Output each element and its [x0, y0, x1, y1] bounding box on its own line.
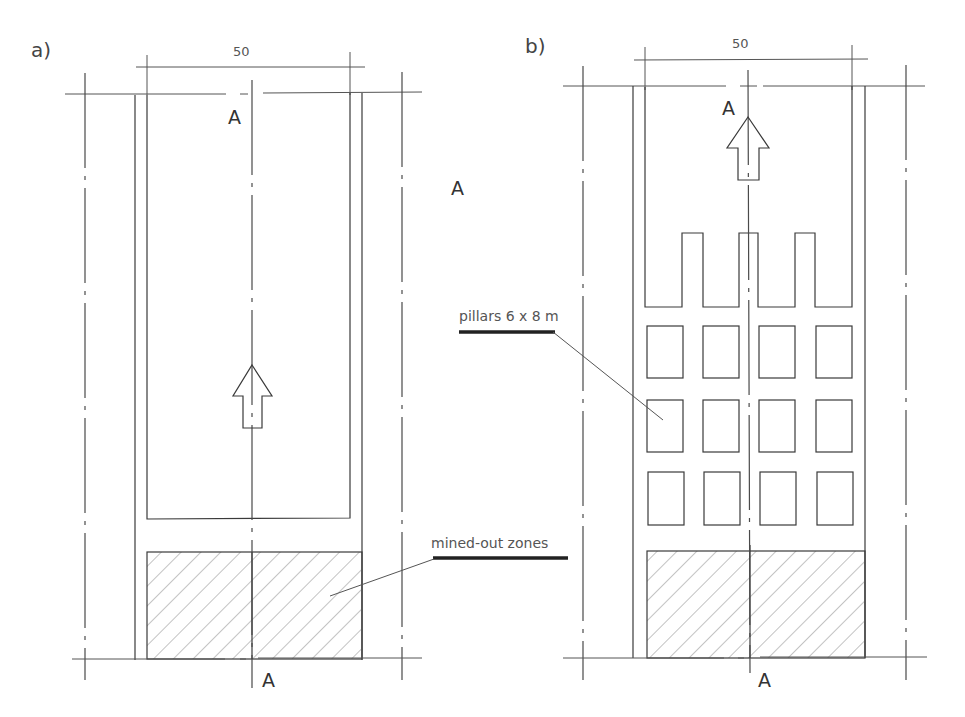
pillar [703, 400, 739, 452]
dimension-line-b [634, 59, 868, 60]
pillar [816, 400, 852, 452]
pillar [817, 472, 853, 525]
panel-b [563, 45, 927, 680]
section-label-top-b: A [722, 97, 735, 119]
pillar [760, 472, 796, 525]
pillar [703, 326, 739, 378]
mining-layout-diagram [0, 0, 965, 717]
section-label-bottom-a: A [262, 669, 275, 691]
panel-label-a: a) [31, 38, 51, 62]
pillar [759, 326, 795, 378]
mined-out-zone-a [147, 552, 362, 659]
callout-label-mined-out: mined-out zones [431, 535, 548, 551]
callout-label-pillars: pillars 6 x 8 m [459, 308, 559, 324]
pillar [816, 326, 852, 378]
dimension-label-a: 50 [233, 44, 250, 59]
pillar [648, 472, 684, 525]
pillar [647, 326, 683, 378]
dimension-label-b: 50 [732, 36, 749, 51]
panel-a [65, 52, 422, 688]
pillar [647, 400, 683, 452]
stope-outline-a [147, 93, 350, 519]
section-label-floating: A [451, 177, 464, 199]
callout-mined-out [330, 558, 568, 596]
section-label-bottom-b: A [758, 669, 771, 691]
section-label-top-a: A [228, 106, 241, 128]
panel-label-b: b) [525, 34, 546, 58]
mined-out-zone-b [647, 551, 865, 658]
pillar [704, 472, 740, 525]
pillar [759, 400, 795, 452]
